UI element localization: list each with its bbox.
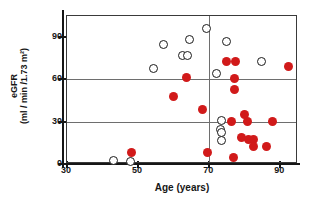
data-point-filled [198, 105, 207, 114]
data-point-filled [227, 117, 236, 126]
data-point-open [217, 136, 226, 145]
data-point-open [257, 57, 266, 66]
y-axis-title: eGFR (ml / min /1.73 m²) [2, 14, 32, 164]
x-tick-label-90: 90 [267, 166, 291, 175]
y-axis-spine [62, 10, 64, 168]
x-tick-label-50: 50 [125, 166, 149, 175]
x-axis-tick-labels: 30507090 [0, 166, 312, 178]
plot-area [66, 15, 297, 163]
data-point-filled [203, 148, 212, 157]
scatter-plot-figure: eGFR (ml / min /1.73 m²) 0306090 3050709… [0, 0, 312, 201]
x-axis-spine [62, 163, 300, 165]
data-point-filled [182, 73, 191, 82]
data-point-open [222, 37, 231, 46]
data-point-filled [230, 85, 239, 94]
data-point-open [212, 69, 221, 78]
data-point-open [149, 64, 158, 73]
data-point-open [183, 51, 192, 60]
data-point-filled [169, 92, 178, 101]
gridline-horizontal-60 [67, 79, 296, 80]
x-tick-label-70: 70 [196, 166, 220, 175]
data-point-filled [284, 62, 293, 71]
data-point-filled [262, 142, 271, 151]
data-point-filled [231, 57, 240, 66]
x-tick-label-30: 30 [54, 166, 78, 175]
data-point-filled [229, 153, 238, 162]
data-point-filled [230, 74, 239, 83]
data-point-filled [243, 117, 252, 126]
gridline-vertical-70 [209, 16, 210, 162]
data-point-filled [268, 117, 277, 126]
data-point-open [159, 40, 168, 49]
gridline-horizontal-30 [67, 122, 296, 123]
data-point-filled [249, 142, 258, 151]
data-point-filled [127, 148, 136, 157]
data-point-open [185, 35, 194, 44]
y-axis-title-line2: (ml / min /1.73 m²) [19, 11, 31, 161]
x-axis-title: Age (years) [66, 182, 298, 193]
data-point-open [217, 116, 226, 125]
